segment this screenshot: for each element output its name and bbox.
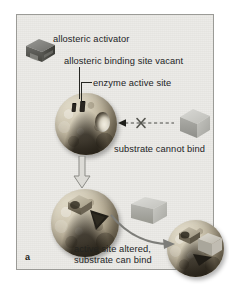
leader-line-active-site-horizontal <box>81 82 92 83</box>
enzyme-active-site-pit <box>95 112 110 132</box>
blocked-binding-arrow-icon <box>118 116 176 130</box>
allosteric-activator-icon <box>22 38 56 66</box>
label-substrate-can-bind: substrate can bind <box>74 255 152 266</box>
substrate-cube-free <box>178 107 212 141</box>
altered-active-site-icon <box>89 207 111 231</box>
leader-line-active-site-vertical <box>81 82 82 103</box>
leader-line-vacant <box>79 67 80 99</box>
label-active-site-altered-group: active site altered, substrate can bind <box>74 244 152 266</box>
label-substrate-cannot-bind: substrate cannot bind <box>114 144 205 155</box>
label-allosteric-activator: allosteric activator <box>53 34 129 45</box>
figure-root: allosteric activator allosteric binding … <box>0 0 229 284</box>
panel-letter-a: a <box>25 252 30 262</box>
transition-down-arrow-icon <box>73 156 91 189</box>
label-active-site-altered: active site altered, <box>74 244 152 255</box>
allosteric-site-notch-left <box>72 103 77 112</box>
label-enzyme-active-site: enzyme active site <box>93 78 171 89</box>
label-allosteric-binding-site-vacant: allosteric binding site vacant <box>64 56 183 67</box>
figure-panel: allosteric activator allosteric binding … <box>16 14 214 270</box>
altered-active-site-icon-3 <box>193 253 213 267</box>
